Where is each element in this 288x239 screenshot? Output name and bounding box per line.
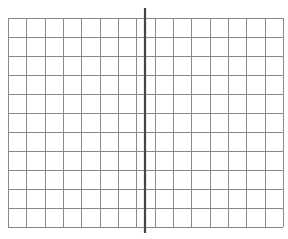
grid-svg: [0, 0, 288, 239]
grid-diagram: [0, 0, 288, 239]
